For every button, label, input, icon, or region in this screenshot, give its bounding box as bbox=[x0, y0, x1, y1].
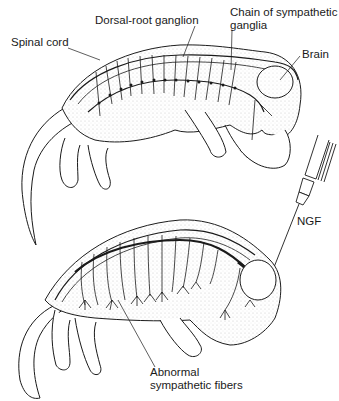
label-spinal-cord: Spinal cord bbox=[11, 36, 69, 49]
label-brain: Brain bbox=[302, 48, 329, 61]
label-ngf: NGF bbox=[297, 215, 321, 228]
ngf-embryo-figure: Spinal cord Dorsal-root ganglion Chain o… bbox=[0, 0, 339, 401]
label-chain-line1: Chain of sympathetic bbox=[230, 6, 337, 19]
label-abnormal-line1: Abnormal bbox=[150, 366, 199, 379]
label-dorsal-root-ganglion: Dorsal-root ganglion bbox=[95, 14, 199, 27]
label-chain-line2: ganglia bbox=[230, 19, 267, 32]
illustration bbox=[0, 0, 339, 401]
label-abnormal-line2: sympathetic fibers bbox=[150, 379, 243, 392]
top-embryo bbox=[22, 45, 301, 245]
